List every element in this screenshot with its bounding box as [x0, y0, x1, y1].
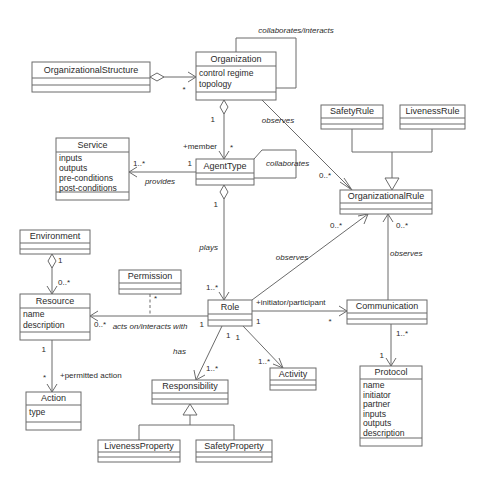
- mult-communication-star: *: [328, 317, 331, 326]
- class-attr-resource-1: description: [23, 320, 65, 330]
- class-name-agent-type: AgentType: [203, 161, 246, 171]
- edge-environment-resource: 1 0..*: [47, 254, 70, 294]
- class-liveness-rule[interactable]: LivenessRule: [400, 105, 465, 129]
- label-member: +member: [183, 142, 217, 151]
- class-permission[interactable]: Permission: [119, 270, 181, 294]
- class-service[interactable]: Service inputs outputs pre-conditions po…: [56, 138, 129, 200]
- mult-action-star: *: [43, 373, 46, 382]
- class-name-service: Service: [77, 140, 107, 150]
- mult-role-comm-one: 1: [256, 317, 261, 326]
- class-attr-protocol-3: inputs: [363, 409, 386, 419]
- class-role[interactable]: Role: [208, 300, 252, 326]
- class-name-safety-rule: SafetyRule: [330, 106, 374, 116]
- label-plays: plays: [198, 243, 218, 252]
- class-protocol[interactable]: Protocol name initiator partner inputs o…: [360, 366, 422, 446]
- class-name-environment: Environment: [30, 231, 81, 241]
- label-observes-organization: observes: [262, 116, 294, 125]
- mult-agenttype-plays-one: 1: [214, 200, 219, 209]
- edge-agenttype-service: 1 1..* provides: [129, 159, 196, 186]
- class-attr-service-3: post-conditions: [59, 183, 117, 193]
- mult-agenttype-member-star: *: [230, 143, 233, 152]
- mult-resource-zerostar: 0..*: [58, 278, 70, 287]
- class-liveness-property[interactable]: LivenessProperty: [98, 440, 180, 462]
- class-attr-resource-0: name: [23, 309, 45, 319]
- mult-activity-onestar: 1..*: [258, 357, 270, 366]
- mult-responsibility-onestar: 1..*: [206, 364, 218, 373]
- class-name-resource: Resource: [36, 296, 75, 306]
- class-name-communication: Communication: [356, 301, 419, 311]
- class-attr-protocol-2: partner: [363, 399, 390, 409]
- mult-role-has-one: 1: [226, 331, 231, 340]
- label-observes-communication: observes: [390, 249, 422, 258]
- class-attr-service-1: outputs: [59, 163, 87, 173]
- class-environment[interactable]: Environment: [20, 230, 90, 254]
- mult-role-activity-one: 1: [236, 333, 241, 342]
- class-organization[interactable]: Organization control regime topology: [196, 52, 276, 100]
- mult-organization-member-one: 1: [211, 115, 216, 124]
- class-attr-service-0: inputs: [59, 153, 82, 163]
- mult-resource-acts-zerostar: 0..*: [94, 320, 106, 329]
- mult-orgrule-from-role: 0..*: [330, 221, 342, 230]
- class-name-organization: Organization: [210, 54, 261, 64]
- class-attr-action-0: type: [29, 407, 45, 417]
- class-name-liveness-property: LivenessProperty: [104, 441, 174, 451]
- edge-role-resource: 1 0..* acts on/interacts with: [90, 311, 208, 331]
- class-name-action: Action: [41, 393, 66, 403]
- class-name-permission: Permission: [128, 271, 173, 281]
- label-initiator-participant: +initiator/participant: [256, 298, 326, 307]
- mult-orgrule-from-communication: 0..*: [396, 221, 408, 230]
- mult-agenttype-provides-one: 1: [188, 159, 193, 168]
- mult-protocol-one: 1: [380, 351, 385, 360]
- class-responsibility[interactable]: Responsibility: [152, 380, 228, 404]
- edge-permission-link: *: [150, 294, 157, 316]
- mult-communication-protocol-onestar: 1..*: [396, 329, 408, 338]
- mult-role-plays-onestar: 1..*: [206, 283, 218, 292]
- edge-communication-protocol: 1..* 1: [380, 324, 408, 366]
- class-attr-organization-0: control regime: [199, 68, 254, 78]
- class-attr-protocol-4: outputs: [363, 418, 391, 428]
- edge-communication-orgrule: observes 0..*: [383, 214, 422, 300]
- uml-class-diagram: Organization --> * collaborates/interact…: [0, 0, 488, 483]
- label-acts-on: acts on/interacts with: [113, 322, 188, 331]
- edge-resource-action: 1 * +permitted action: [42, 340, 122, 392]
- label-collaborates-interacts: collaborates/interacts: [258, 26, 334, 35]
- label-permitted-action: +permitted action: [60, 371, 122, 380]
- edge-role-communication: +initiator/participant 1 *: [252, 298, 347, 326]
- class-activity[interactable]: Activity: [270, 368, 316, 390]
- class-attr-protocol-1: initiator: [363, 390, 391, 400]
- class-name-organizational-structure: OrganizationalStructure: [44, 65, 139, 75]
- diagram-canvas: Organization --> * collaborates/interact…: [0, 0, 488, 483]
- edge-properties-generalization: [139, 404, 234, 440]
- mult-orgstructure-organization: *: [182, 85, 185, 94]
- label-provides: provides: [144, 177, 175, 186]
- class-agent-type[interactable]: AgentType: [196, 159, 254, 185]
- edge-agenttype-role: 1 plays 1..*: [198, 185, 229, 300]
- edge-role-orgrule: observes 0..*: [252, 214, 368, 300]
- mult-permission-star: *: [154, 294, 157, 303]
- edge-role-activity: 1 1..*: [236, 326, 283, 368]
- mult-service-provides-onestar: 1..*: [133, 159, 145, 168]
- edge-role-responsibility: 1 has 1..*: [173, 326, 231, 380]
- class-organizational-rule[interactable]: OrganizationalRule: [340, 190, 432, 214]
- edge-organization-agenttype: 1 +member *: [183, 100, 233, 159]
- mult-environment-one: 1: [58, 256, 63, 265]
- class-action[interactable]: Action type: [26, 392, 81, 430]
- edge-orgstructure-organization: *: [150, 72, 196, 94]
- label-observes-role: observes: [276, 253, 308, 262]
- class-resource[interactable]: Resource name description: [20, 294, 90, 340]
- class-name-protocol: Protocol: [374, 367, 407, 377]
- class-communication[interactable]: Communication: [347, 300, 427, 324]
- mult-orgrule-from-organization: 0..*: [319, 171, 331, 180]
- label-collaborates: collaborates: [266, 159, 309, 168]
- edge-rules-generalization: [352, 129, 432, 190]
- class-organizational-structure[interactable]: OrganizationalStructure: [32, 62, 150, 92]
- class-attr-protocol-5: description: [363, 428, 405, 438]
- class-safety-property[interactable]: SafetyProperty: [196, 440, 272, 462]
- class-safety-rule[interactable]: SafetyRule: [321, 105, 383, 129]
- label-has: has: [173, 347, 186, 356]
- class-attr-service-2: pre-conditions: [59, 173, 113, 183]
- mult-resource-action-one: 1: [42, 345, 47, 354]
- class-name-organizational-rule: OrganizationalRule: [348, 191, 425, 201]
- edge-agenttype-self: collaborates: [254, 150, 309, 178]
- class-name-liveness-rule: LivenessRule: [405, 106, 459, 116]
